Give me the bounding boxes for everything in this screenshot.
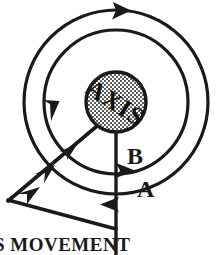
axis-movement-diagram: AXIS B A IS MOVEMENT (0, 0, 221, 255)
diagram-canvas: AXIS B A (0, 0, 221, 255)
inner-axis-disc-group: AXIS (82, 72, 150, 132)
figure-caption: IS MOVEMENT (0, 234, 130, 255)
diagonal-lower-line (8, 200, 116, 229)
label-b: B (127, 143, 143, 169)
label-a: A (137, 176, 155, 202)
